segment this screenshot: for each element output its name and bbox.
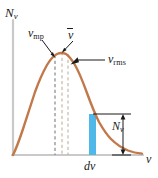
vmp-label: vmp	[28, 27, 44, 39]
vrms-label: vrms	[108, 53, 126, 65]
vbar-leader-arrow	[62, 41, 73, 53]
dv-shaded-bar	[89, 114, 96, 155]
y-axis-label: Nv	[5, 6, 18, 19]
figure-canvas	[0, 0, 158, 178]
dv-label: dv	[84, 160, 95, 172]
nv-bar-height-label: Nv	[112, 120, 124, 132]
vmp-leader-arrow	[42, 40, 55, 58]
vbar-label: v	[68, 29, 73, 41]
speed-distribution-figure: Nv vmp v vrms Nv dv v	[0, 0, 158, 178]
x-axis-label: v	[146, 153, 151, 165]
dashed-reference-lines	[55, 52, 68, 155]
nv-arrow-head-up	[121, 114, 126, 120]
vrms-leader-arrow	[71, 57, 106, 64]
